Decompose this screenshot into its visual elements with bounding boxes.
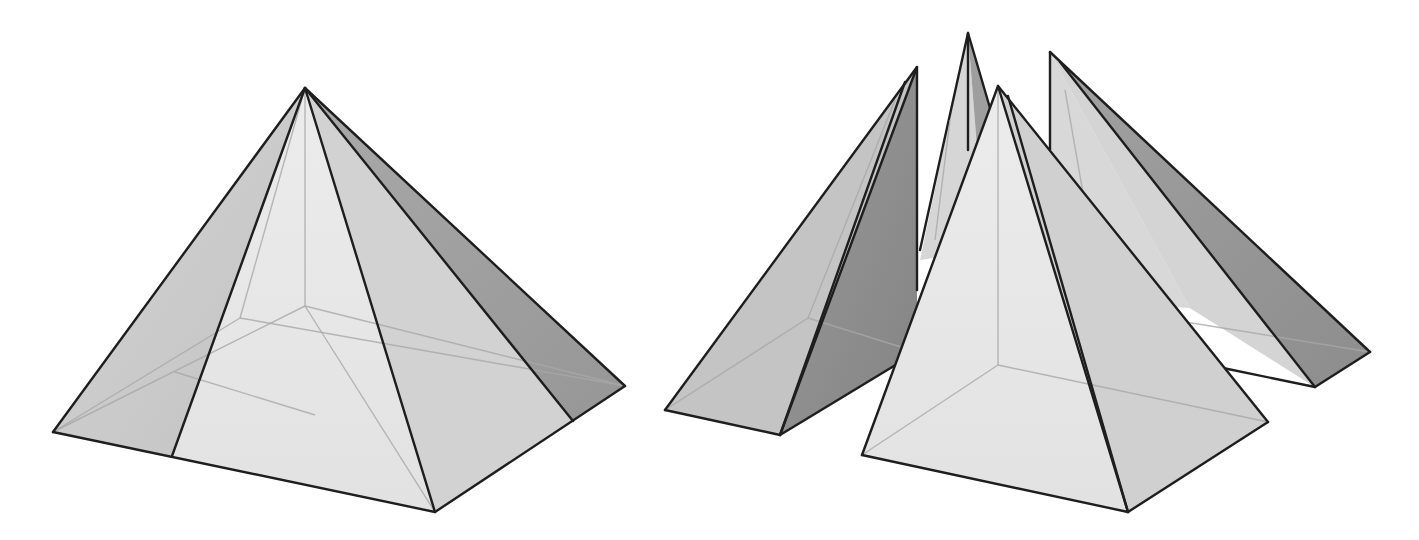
left-piece	[665, 67, 917, 435]
pyramid-diagram	[0, 0, 1419, 540]
diagram-stage	[0, 0, 1419, 540]
whole-pyramid	[53, 88, 625, 512]
decomposed-pyramid	[665, 33, 1370, 512]
